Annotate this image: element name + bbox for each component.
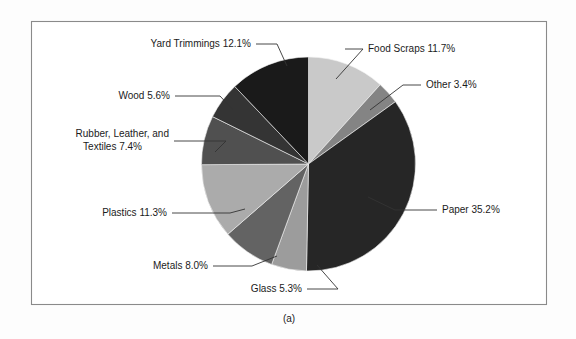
slice-label-wood: Wood 5.6% [118, 90, 170, 101]
figure-caption: (a) [283, 313, 295, 324]
slice-label-other: Other 3.4% [426, 79, 477, 90]
pie-chart-figure: Food Scraps 11.7% Other 3.4% Paper 35.2%… [0, 0, 576, 339]
pie-slices [201, 57, 415, 271]
figure-container: Food Scraps 11.7% Other 3.4% Paper 35.2%… [0, 0, 576, 339]
slice-label-glass: Glass 5.3% [251, 283, 302, 294]
slice-label-plastics: Plastics 11.3% [102, 207, 167, 218]
slice-label-metals: Metals 8.0% [153, 260, 208, 271]
slice-label-yard-trimmings: Yard Trimmings 12.1% [151, 38, 252, 49]
slice-label-paper: Paper 35.2% [442, 204, 500, 215]
slice-label-food-scraps: Food Scraps 11.7% [368, 43, 455, 54]
slice-label-rubber-line1: Rubber, Leather, and [76, 128, 169, 139]
slice-label-rubber-line2: Textiles 7.4% [83, 141, 142, 152]
